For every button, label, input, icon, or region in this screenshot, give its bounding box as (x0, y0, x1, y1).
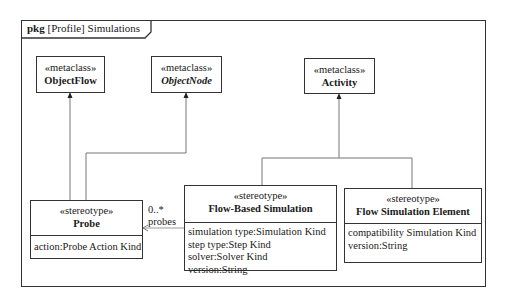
attribute: version:String (188, 264, 333, 277)
class-name: ObjectNode (152, 74, 221, 87)
stereotype-flow-based-simulation[interactable]: «stereotype» Flow-Based Simulation simul… (184, 185, 337, 271)
attribute-compartment: action:Probe Action Kind (31, 236, 142, 258)
stereotype-label: «stereotype» (345, 193, 481, 205)
extension-probe-objectnode (86, 96, 186, 200)
metaclass-activity[interactable]: «metaclass» Activity (304, 58, 375, 94)
class-header: «stereotype» Probe (31, 201, 142, 236)
stereotype-label: «metaclass» (152, 62, 221, 74)
class-name: Flow-Based Simulation (185, 202, 336, 215)
stereotype-label: «stereotype» (185, 190, 336, 202)
association-role: probes (148, 216, 176, 228)
stereotype-label: «metaclass» (37, 62, 104, 74)
extension-activity-branches (262, 158, 412, 188)
stereotype-flow-simulation-element[interactable]: «stereotype» Flow Simulation Element com… (344, 188, 482, 263)
attribute-compartment: simulation type:Simulation Kind step typ… (185, 223, 336, 270)
attribute: step type:Step Kind (188, 239, 333, 252)
attribute: version:String (348, 240, 478, 253)
frame-name: [Profile] Simulations (48, 22, 141, 34)
association-multiplicity: 0..* (148, 204, 164, 216)
metaclass-objectflow[interactable]: «metaclass» ObjectFlow (36, 56, 105, 93)
attribute: solver:Solver Kind (188, 251, 333, 264)
attribute-compartment: compatibility Simulation Kind version:St… (345, 224, 481, 262)
attribute: compatibility Simulation Kind (348, 227, 478, 240)
class-header: «stereotype» Flow Simulation Element (345, 189, 481, 224)
stereotype-label: «stereotype» (31, 205, 142, 217)
class-name: Activity (305, 76, 374, 89)
frame-title: pkg [Profile] Simulations (27, 22, 140, 34)
attribute: action:Probe Action Kind (34, 241, 139, 254)
frame-kind: pkg (27, 22, 45, 34)
stereotype-label: «metaclass» (305, 64, 374, 76)
metaclass-objectnode[interactable]: «metaclass» ObjectNode (151, 56, 222, 93)
class-name: Flow Simulation Element (345, 205, 481, 218)
class-header: «stereotype» Flow-Based Simulation (185, 186, 336, 223)
class-name: Probe (31, 217, 142, 230)
attribute: simulation type:Simulation Kind (188, 226, 333, 239)
class-name: ObjectFlow (37, 74, 104, 87)
stereotype-probe[interactable]: «stereotype» Probe action:Probe Action K… (30, 200, 143, 259)
